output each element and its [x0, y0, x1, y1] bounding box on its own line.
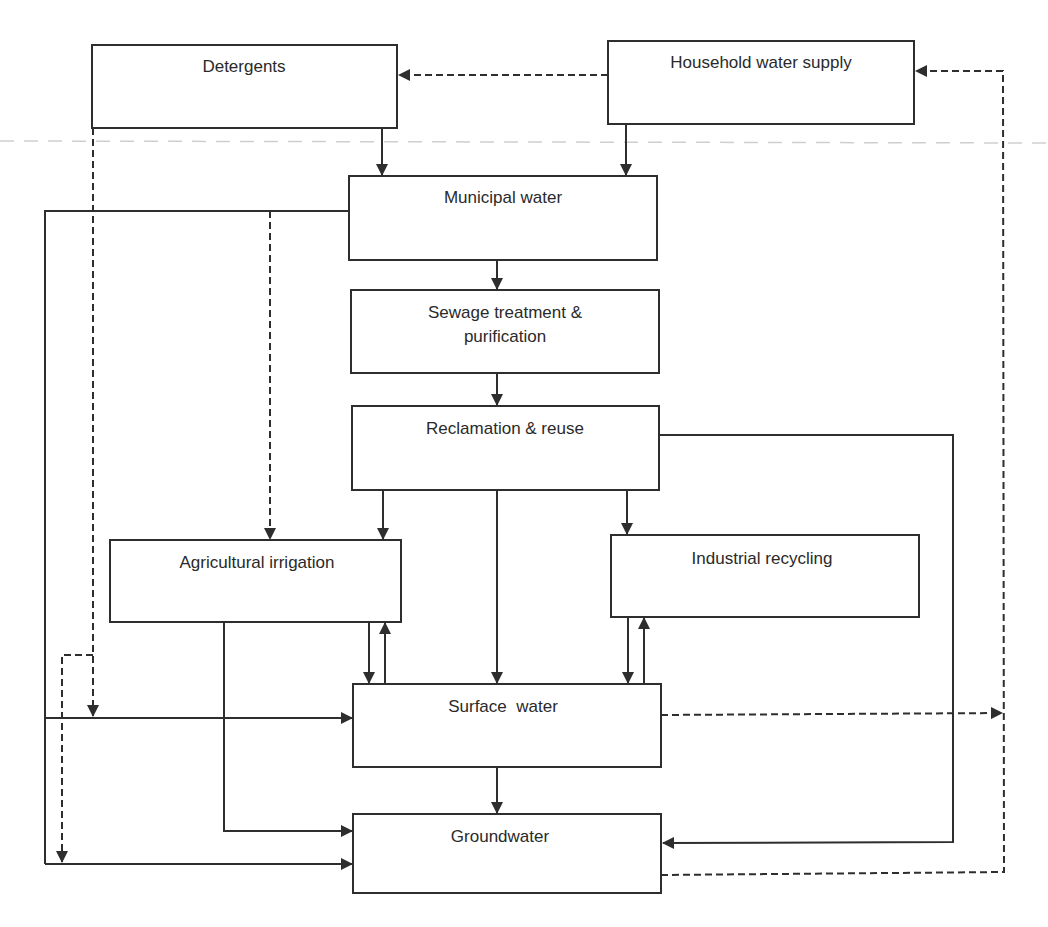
node-groundwater: Groundwater	[353, 814, 661, 893]
node-label: Municipal water	[444, 188, 562, 207]
node-reclamation-reuse: Reclamation & reuse	[352, 406, 659, 490]
node-sewage-treatment: Sewage treatment & purification	[351, 290, 659, 373]
node-label: Agricultural irrigation	[180, 553, 335, 572]
node-municipal-water: Municipal water	[349, 176, 657, 260]
edge-surface-to-household	[661, 713, 1002, 715]
node-label-line2: purification	[464, 327, 546, 346]
node-label: Industrial recycling	[692, 549, 833, 568]
node-detergents: Detergents	[92, 45, 397, 128]
node-label: Groundwater	[451, 827, 550, 846]
edge-detergents-to-groundwater	[62, 655, 93, 862]
node-label: Household water supply	[670, 53, 852, 72]
node-household-water-supply: Household water supply	[608, 41, 914, 124]
node-surface-water: Surface water	[353, 684, 661, 767]
node-label: Surface water	[448, 697, 558, 716]
node-label: Reclamation & reuse	[426, 419, 584, 438]
edge-reclamation-to-groundwater	[659, 435, 953, 843]
edge-agricultural-to-groundwater	[224, 622, 352, 831]
node-agricultural-irrigation: Agricultural irrigation	[110, 540, 401, 622]
water-reuse-flow-diagram: Detergents Household water supply Munici…	[0, 0, 1048, 927]
edge-municipal-left-bus	[45, 211, 349, 864]
node-label: Detergents	[202, 57, 285, 76]
node-industrial-recycling: Industrial recycling	[611, 535, 919, 617]
node-label-line1: Sewage treatment &	[428, 303, 583, 322]
scan-artifact-line	[0, 141, 1048, 143]
